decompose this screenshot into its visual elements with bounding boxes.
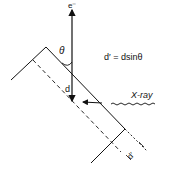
xray-wave [111,103,155,105]
escape-depth-boundary [33,60,147,152]
surface-left-edge [11,47,46,80]
dashed-depth-line [33,60,121,152]
dashed-depth-line-outer [125,129,147,151]
d-prime-label: d′ [126,150,137,161]
theta-label: θ [59,45,65,56]
xray-label: X-ray [130,90,153,100]
photoelectron-escape-depth-diagram: d′ e⁻ θ d d′ = dsinθ X-ray [0,0,169,175]
depth-label: d [65,84,70,94]
electron-label: e⁻ [68,1,76,10]
sample-surface [11,47,125,163]
equation-label: d′ = dsinθ [104,52,142,62]
surface-bottom-edge [91,129,125,163]
d-prime-tick-1 [139,142,144,147]
